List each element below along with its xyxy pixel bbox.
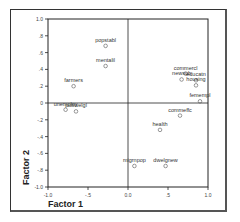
x-tick-label: -1.0 — [44, 192, 53, 198]
x-tick-label: 0.0 — [125, 192, 132, 198]
point-marker-icon — [178, 114, 182, 118]
y-tick-label: -.6 — [37, 150, 43, 156]
point-label: health — [153, 121, 168, 127]
x-axis-label: Factor 1 — [48, 199, 83, 209]
point-label: femempl — [189, 92, 210, 98]
y-tick-label: .2 — [39, 83, 43, 89]
point-label: farmers — [64, 77, 83, 83]
point-label: housing — [186, 76, 205, 82]
y-tick-label: -.2 — [37, 117, 43, 123]
point-marker-icon — [133, 164, 137, 168]
scatter-plot: -1.0-.50.0.51.01.0.8.6.4.20-.2-.4-.6-.8-… — [0, 0, 240, 222]
data-point: housing — [186, 76, 205, 87]
y-tick-label: -.8 — [37, 167, 43, 173]
point-marker-icon — [64, 108, 68, 112]
point-marker-icon — [104, 44, 108, 48]
y-tick-label: .8 — [39, 33, 43, 39]
point-label: dwelgnew — [153, 157, 177, 163]
point-marker-icon — [72, 84, 76, 88]
data-point: femempl — [189, 92, 210, 103]
point-marker-icon — [180, 78, 184, 82]
data-point: mentalil — [96, 57, 115, 68]
y-tick-label: .4 — [39, 66, 43, 72]
data-point: popstabl — [95, 37, 116, 48]
data-point: health — [153, 121, 168, 132]
data-points: popstablmentalilfarmersunemploypubwelglc… — [54, 37, 211, 168]
y-tick-label: -1.0 — [34, 184, 43, 190]
data-point: migrnpop — [123, 157, 146, 168]
point-marker-icon — [158, 128, 162, 132]
y-tick-label: .6 — [39, 50, 43, 56]
data-point: farmers — [64, 77, 83, 88]
data-point: pubwelgl — [65, 102, 87, 113]
y-tick-label: -.4 — [37, 134, 43, 140]
point-label: popstabl — [95, 37, 116, 43]
point-marker-icon — [164, 164, 168, 168]
point-label: migrnpop — [123, 157, 146, 163]
x-tick-label: 1.0 — [205, 192, 212, 198]
point-label: commeffc — [168, 107, 192, 113]
point-marker-icon — [74, 110, 78, 114]
y-tick-label: 1.0 — [36, 16, 43, 22]
data-point: commeffc — [168, 107, 192, 118]
y-tick-label: 0 — [40, 100, 43, 106]
point-marker-icon — [198, 100, 202, 104]
point-marker-icon — [194, 84, 198, 88]
point-marker-icon — [104, 64, 108, 68]
data-point: dwelgnew — [153, 157, 177, 168]
y-axis-label: Factor 2 — [21, 150, 31, 185]
x-tick-label: .5 — [166, 192, 170, 198]
point-label: pubwelgl — [65, 102, 87, 108]
x-tick-label: -.5 — [85, 192, 91, 198]
point-label: mentalil — [96, 57, 115, 63]
